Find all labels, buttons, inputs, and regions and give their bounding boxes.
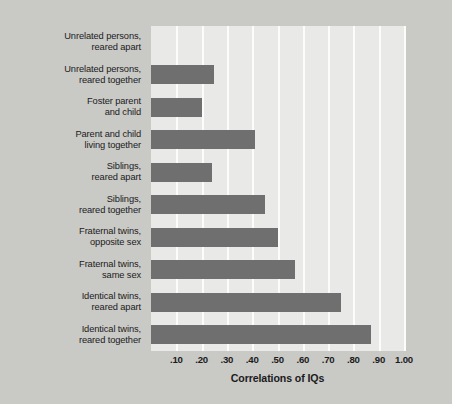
bar xyxy=(151,228,278,247)
category-label-line2: and child xyxy=(105,107,141,118)
category-label-line1: Siblings, xyxy=(107,194,141,205)
x-tick-label: 1.00 xyxy=(395,354,413,365)
x-tick-label: .20 xyxy=(195,354,208,365)
bars-layer xyxy=(151,26,404,351)
category-label-line2: opposite sex xyxy=(90,237,141,248)
x-tick-label: .30 xyxy=(221,354,234,365)
plot-area xyxy=(151,26,404,351)
category-label-line1: Unrelated persons, xyxy=(64,64,141,75)
bar-row xyxy=(151,189,404,222)
category-label: Unrelated persons,reared apart xyxy=(10,26,146,59)
bar-row xyxy=(151,156,404,189)
category-label-line1: Fraternal twins, xyxy=(79,226,141,237)
category-label-line1: Siblings, xyxy=(107,161,141,172)
category-label-line1: Unrelated persons, xyxy=(64,31,141,42)
category-label: Foster parentand child xyxy=(10,91,146,124)
category-label-line1: Foster parent xyxy=(87,96,141,107)
category-label: Identical twins,reared together xyxy=(10,319,146,352)
category-label-line1: Fraternal twins, xyxy=(79,259,141,270)
x-axis-title: Correlations of IQs xyxy=(151,372,404,384)
bar-row xyxy=(151,59,404,92)
category-label-line2: reared together xyxy=(79,75,141,86)
category-label: Fraternal twins,same sex xyxy=(10,254,146,287)
category-label: Siblings,reared apart xyxy=(10,156,146,189)
bar-row xyxy=(151,319,404,352)
figure-card: Unrelated persons,reared apartUnrelated … xyxy=(0,0,452,404)
x-axis-ticks: .10.20.30.40.50.60.70.80.901.00 xyxy=(151,354,404,368)
category-label-line2: reared together xyxy=(79,335,141,346)
bar xyxy=(151,163,212,182)
bar xyxy=(151,325,371,344)
category-label: Identical twins,reared apart xyxy=(10,286,146,319)
x-tick-label: .50 xyxy=(271,354,284,365)
category-label: Parent and childliving together xyxy=(10,124,146,157)
x-tick-label: .40 xyxy=(246,354,259,365)
bar-row xyxy=(151,221,404,254)
bar-row xyxy=(151,286,404,319)
bar-row xyxy=(151,26,404,59)
x-tick-label: .90 xyxy=(372,354,385,365)
gridline xyxy=(404,26,406,351)
x-tick-label: .70 xyxy=(322,354,335,365)
x-tick-label: .80 xyxy=(347,354,360,365)
category-label-line2: reared apart xyxy=(92,42,141,53)
category-label-line2: reared apart xyxy=(92,302,141,313)
category-label-line2: living together xyxy=(85,140,141,151)
bar xyxy=(151,293,341,312)
bar xyxy=(151,65,214,84)
bar xyxy=(151,130,255,149)
bar xyxy=(151,260,295,279)
category-label: Siblings,reared together xyxy=(10,189,146,222)
category-axis-labels: Unrelated persons,reared apartUnrelated … xyxy=(10,26,146,351)
category-label-line2: reared together xyxy=(79,205,141,216)
category-label-line2: reared apart xyxy=(92,172,141,183)
category-label-line1: Identical twins, xyxy=(82,291,141,302)
bar-row xyxy=(151,91,404,124)
bar-row xyxy=(151,254,404,287)
x-tick-label: .10 xyxy=(170,354,183,365)
category-label: Unrelated persons,reared together xyxy=(10,59,146,92)
category-label-line1: Parent and child xyxy=(75,129,141,140)
bar xyxy=(151,98,202,117)
category-label-line2: same sex xyxy=(102,270,141,281)
bar-row xyxy=(151,124,404,157)
x-tick-label: .60 xyxy=(296,354,309,365)
category-label-line1: Identical twins, xyxy=(82,324,141,335)
category-label: Fraternal twins,opposite sex xyxy=(10,221,146,254)
bar xyxy=(151,195,265,214)
